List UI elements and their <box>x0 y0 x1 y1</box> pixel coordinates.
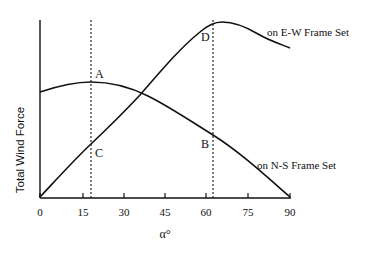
x-tick-label: 15 <box>78 206 90 218</box>
point-label-a: A <box>95 67 104 81</box>
point-label-c: C <box>95 146 103 160</box>
point-label-b: B <box>201 137 209 151</box>
ns-frame-set-curve <box>40 82 290 197</box>
x-tick-label: 0 <box>37 206 43 218</box>
x-axis-label: α° <box>159 227 170 241</box>
x-tick-label: 60 <box>201 206 213 218</box>
series-label-ns: on N-S Frame Set <box>257 159 336 171</box>
wind-force-chart: 0 15 30 45 60 75 90 α° Total Wind Force … <box>0 0 366 254</box>
point-label-d: D <box>201 30 210 44</box>
x-tick-label: 45 <box>160 206 172 218</box>
x-tick-label: 75 <box>243 206 255 218</box>
ew-frame-set-curve <box>40 22 290 197</box>
x-tick-labels: 0 15 30 45 60 75 90 <box>37 206 296 218</box>
x-tick-label: 90 <box>285 206 297 218</box>
series-label-ew: on E-W Frame Set <box>267 26 349 38</box>
y-axis-label: Total Wind Force <box>14 107 26 193</box>
x-ticks <box>40 193 290 198</box>
x-tick-label: 30 <box>119 206 131 218</box>
